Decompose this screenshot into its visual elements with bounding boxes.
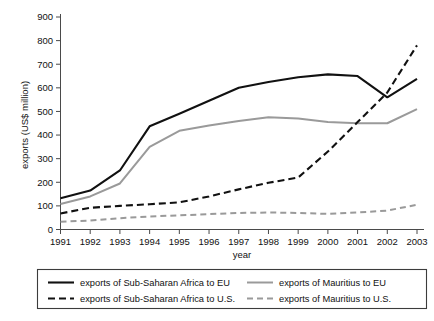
legend-label-3: exports of Sub-Saharan Africa to U.S. (80, 294, 235, 304)
x-tick-label: 1996 (198, 236, 219, 247)
x-tick-label: 1993 (109, 236, 130, 247)
legend-label-4: exports of Mauritius to U.S. (279, 294, 391, 304)
x-tick-label: 1999 (288, 236, 309, 247)
series-line-4 (61, 205, 418, 222)
y-tick-label: 100 (37, 200, 53, 211)
y-axis-title-text: exports (US$ million) (19, 81, 30, 169)
chart-figure: exports (US$ million) 010020030040050060… (0, 0, 434, 321)
x-tick-label: 1995 (169, 236, 190, 247)
x-axis-title-text: year (233, 249, 251, 260)
y-tick-label: 900 (37, 11, 53, 22)
x-axis-title: year (233, 249, 251, 260)
figure-source-caption (36, 313, 428, 321)
x-tick-label: 2001 (347, 236, 368, 247)
x-tick-label: 1991 (50, 236, 71, 247)
legend-items: exports of Sub-Saharan Africa to EUexpor… (48, 278, 391, 304)
legend-label-1: exports of Sub-Saharan Africa to EU (80, 278, 230, 288)
y-tick-labels: 0100200300400500600700800900 (37, 11, 53, 235)
series-line-1 (61, 74, 418, 198)
x-tick-label: 1992 (80, 236, 101, 247)
x-tick-labels: 1991199219931994199519961997199819992000… (50, 236, 428, 247)
series-line-3 (61, 45, 418, 213)
x-tick-label: 1997 (228, 236, 249, 247)
y-axis-title: exports (US$ million) (19, 81, 30, 169)
data-series-group (61, 45, 418, 221)
y-tick-label: 500 (37, 106, 53, 117)
y-tick-label: 300 (37, 153, 53, 164)
legend-label-2: exports of Mauritius to EU (279, 278, 386, 288)
x-tick-marks (61, 230, 418, 235)
x-tick-label: 1994 (139, 236, 160, 247)
y-tick-label: 200 (37, 177, 53, 188)
axes (61, 14, 425, 230)
x-tick-label: 2000 (317, 236, 338, 247)
y-tick-label: 800 (37, 35, 53, 46)
x-tick-label: 1998 (258, 236, 279, 247)
y-tick-label: 700 (37, 59, 53, 70)
chart-legend: exports of Sub-Saharan Africa to EUexpor… (38, 270, 427, 309)
y-tick-label: 0 (48, 224, 53, 235)
y-tick-label: 400 (37, 129, 53, 140)
line-chart: exports (US$ million) 010020030040050060… (0, 0, 434, 321)
y-tick-label: 600 (37, 82, 53, 93)
y-tick-marks (56, 17, 61, 230)
x-tick-label: 2002 (377, 236, 398, 247)
x-tick-label: 2003 (406, 236, 427, 247)
